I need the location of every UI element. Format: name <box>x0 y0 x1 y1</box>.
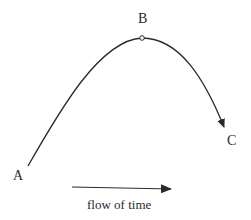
time-arrow <box>72 187 171 189</box>
point-a-label: A <box>13 169 23 183</box>
diagram-svg <box>0 0 251 220</box>
point-b-label: B <box>138 12 147 26</box>
diagram-canvas: A B C flow of time <box>0 0 251 220</box>
time-arrow-caption: flow of time <box>87 198 151 211</box>
trajectory-curve <box>28 38 224 166</box>
peak-point-marker <box>140 36 145 41</box>
point-c-label: C <box>227 134 236 148</box>
